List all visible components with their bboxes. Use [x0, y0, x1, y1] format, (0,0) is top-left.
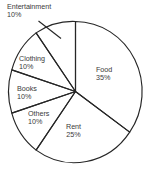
pie-label-entertainment: Entertainment 10% [7, 3, 51, 20]
pie-label-food: Food 35% [96, 66, 112, 83]
pie-label-rent: Rent 25% [66, 123, 81, 140]
pie-slice-rent[interactable] [36, 92, 130, 163]
pie-chart: Food 35% Rent 25% Others 10% Books 10% C… [0, 0, 151, 169]
pie-label-others-value: 10% [28, 118, 49, 126]
pie-label-food-value: 35% [96, 74, 112, 82]
pie-label-rent-value: 25% [66, 131, 81, 139]
pie-label-books-value: 10% [17, 93, 37, 101]
pie-label-clothing-value: 10% [19, 63, 45, 71]
pie-label-books: Books 10% [17, 85, 37, 102]
pie-label-clothing: Clothing 10% [19, 55, 45, 72]
pie-label-entertainment-value: 10% [7, 11, 51, 19]
pie-label-others: Others 10% [28, 110, 49, 127]
